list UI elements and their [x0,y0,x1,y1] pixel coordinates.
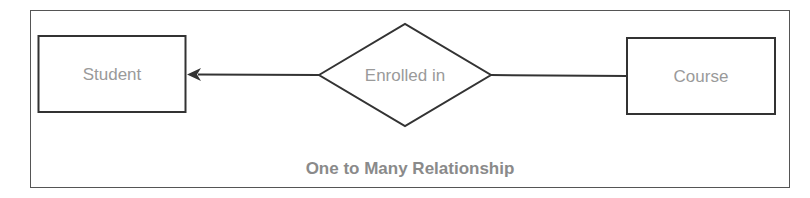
entity-course-label: Course [674,67,729,86]
connector-relationship-course [491,75,627,76]
diagram-caption: One to Many Relationship [306,159,515,178]
er-diagram: Student Course Enrolled in One to Many R… [0,0,810,198]
relationship-label: Enrolled in [365,66,445,85]
entity-course: Course [627,38,775,114]
entity-student: Student [39,36,186,112]
entity-student-label: Student [83,65,142,84]
connector-student-relationship [198,75,319,76]
